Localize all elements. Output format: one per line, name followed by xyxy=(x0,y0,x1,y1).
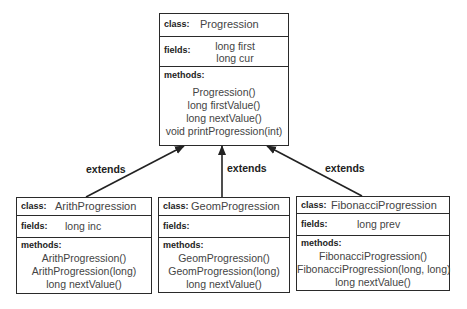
method-item: FibonacciProgression(long, long) xyxy=(297,263,449,276)
class-name: GeomProgression xyxy=(191,200,280,212)
fields-section: fields: xyxy=(159,216,289,238)
field-item: long prev xyxy=(357,218,400,230)
class-box-fibonacciprogression: class: FibonacciProgression fields: long… xyxy=(296,196,450,291)
class-label: class: xyxy=(21,201,47,211)
method-item: ArithProgression() xyxy=(17,252,151,265)
class-box-geomprogression: class: GeomProgression fields: methods: … xyxy=(158,197,290,293)
field-item: long inc xyxy=(65,220,101,232)
method-item: long nextValue() xyxy=(160,112,288,125)
method-item: long nextValue() xyxy=(297,276,449,289)
class-name: FibonacciProgression xyxy=(331,199,437,211)
class-name-section: class: GeomProgression xyxy=(159,198,289,216)
methods-label: methods: xyxy=(164,70,205,80)
class-name-section: class: ArithProgression xyxy=(17,198,151,216)
method-item: GeomProgression() xyxy=(159,252,289,265)
fields-section: fields: long first long cur xyxy=(160,37,288,67)
method-item: long nextValue() xyxy=(17,278,151,291)
fields-section: fields: long prev xyxy=(297,214,449,236)
methods-label: methods: xyxy=(163,240,204,250)
methods-list: GeomProgression() GeomProgression(long) … xyxy=(159,252,289,291)
field-item: long first xyxy=(210,40,260,52)
method-item: FibonacciProgression() xyxy=(297,250,449,263)
class-name-section: class: Progression xyxy=(160,14,288,37)
methods-section: methods: ArithProgression() ArithProgres… xyxy=(17,238,151,293)
methods-label: methods: xyxy=(21,240,62,250)
methods-list: ArithProgression() ArithProgression(long… xyxy=(17,252,151,291)
class-box-arithprogression: class: ArithProgression fields: long inc… xyxy=(16,197,152,294)
extends-label-arith: extends xyxy=(86,163,126,175)
methods-list: FibonacciProgression() FibonacciProgress… xyxy=(297,250,449,289)
method-item: long nextValue() xyxy=(159,278,289,291)
fields-label: fields: xyxy=(164,45,191,55)
method-item: GeomProgression(long) xyxy=(159,265,289,278)
class-label: class: xyxy=(164,19,190,29)
methods-label: methods: xyxy=(301,238,342,248)
fields-list: long first long cur xyxy=(210,40,260,64)
class-name: Progression xyxy=(200,18,259,30)
class-name-section: class: FibonacciProgression xyxy=(297,197,449,214)
fields-list: long inc xyxy=(65,220,101,232)
field-item: long cur xyxy=(210,52,260,64)
class-label: class: xyxy=(163,201,189,211)
method-item: Progression() xyxy=(160,86,288,99)
class-label: class: xyxy=(301,200,327,210)
method-item: ArithProgression(long) xyxy=(17,265,151,278)
extends-label-fib: extends xyxy=(325,162,365,174)
fields-label: fields: xyxy=(163,221,190,231)
fields-list: long prev xyxy=(357,218,400,230)
fields-section: fields: long inc xyxy=(17,216,151,238)
methods-section: methods: Progression() long firstValue()… xyxy=(160,67,288,144)
fields-label: fields: xyxy=(21,221,48,231)
methods-section: methods: FibonacciProgression() Fibonacc… xyxy=(297,236,449,289)
methods-list: Progression() long firstValue() long nex… xyxy=(160,86,288,138)
class-name: ArithProgression xyxy=(55,200,136,212)
extends-label-geom: extends xyxy=(227,162,267,174)
class-box-progression: class: Progression fields: long first lo… xyxy=(159,13,289,146)
method-item: long firstValue() xyxy=(160,99,288,112)
methods-section: methods: GeomProgression() GeomProgressi… xyxy=(159,238,289,292)
method-item: void printProgression(int) xyxy=(160,125,288,138)
fields-label: fields: xyxy=(301,219,328,229)
